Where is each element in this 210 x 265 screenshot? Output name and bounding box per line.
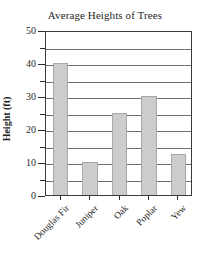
x-axis-category-label: Douglas Fir xyxy=(18,203,70,255)
y-axis-title: Height (ft) xyxy=(1,74,15,164)
bar xyxy=(171,154,186,195)
y-axis-major-tick xyxy=(38,163,45,164)
y-axis-major-tick xyxy=(38,64,45,65)
y-axis-tick-label: 50 xyxy=(10,26,36,36)
bars-layer xyxy=(46,32,191,195)
x-axis-tick xyxy=(89,196,90,200)
y-axis-tick-label: 30 xyxy=(10,92,36,102)
bar-chart: Average Heights of Trees Height (ft) 010… xyxy=(0,0,210,265)
x-axis-tick xyxy=(148,196,149,200)
y-axis-major-tick xyxy=(38,97,45,98)
chart-title: Average Heights of Trees xyxy=(0,9,210,21)
y-axis-tick-label: 0 xyxy=(10,191,36,201)
y-axis-tick-label: 20 xyxy=(10,125,36,135)
x-axis-tick xyxy=(60,196,61,200)
x-axis-tick xyxy=(119,196,120,200)
y-axis-tick-label: 40 xyxy=(10,59,36,69)
y-axis-major-tick xyxy=(38,31,45,32)
bar xyxy=(82,162,97,195)
x-axis-tick xyxy=(177,196,178,200)
y-axis-major-tick xyxy=(38,130,45,131)
bar xyxy=(53,63,68,195)
bar xyxy=(141,96,156,195)
y-axis-major-tick xyxy=(38,196,45,197)
bar xyxy=(112,113,127,196)
y-axis-tick-label: 10 xyxy=(10,158,36,168)
plot-area xyxy=(45,31,192,196)
